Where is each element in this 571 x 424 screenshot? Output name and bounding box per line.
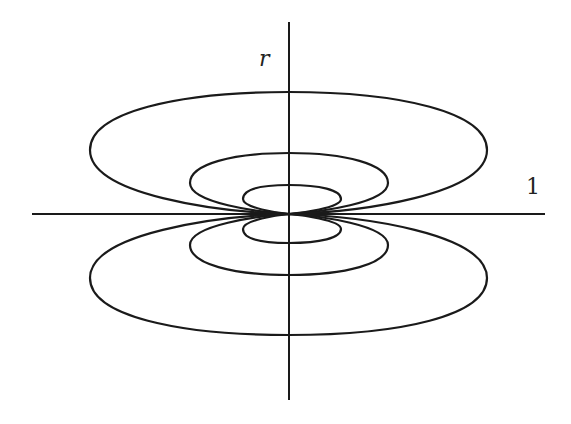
horizontal-axis-label: 1: [526, 174, 540, 199]
diagram-canvas: r 1: [0, 0, 571, 424]
vertical-axis-label: r: [259, 46, 271, 71]
